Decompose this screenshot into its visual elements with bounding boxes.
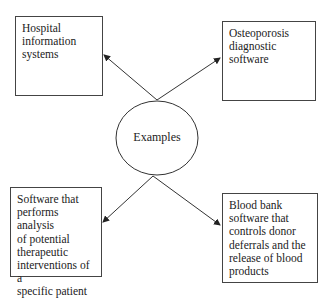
node-line: controls donor bbox=[229, 225, 311, 238]
node-line: release of blood bbox=[229, 252, 311, 265]
node-line: Software that bbox=[17, 193, 95, 206]
node-line: deferrals and the bbox=[229, 239, 311, 252]
node-blood-bank-software: Blood bank software that controls donor … bbox=[222, 193, 318, 283]
node-line: of potential bbox=[17, 233, 95, 246]
center-node-label: Examples bbox=[117, 130, 197, 145]
node-line: performs analysis bbox=[17, 206, 95, 232]
node-line: diagnostic bbox=[229, 40, 309, 53]
edge-to-top-left bbox=[104, 55, 157, 100]
node-line: specific patient bbox=[17, 285, 95, 298]
edge-to-top-right bbox=[157, 58, 220, 100]
edge-to-bottom-left bbox=[103, 176, 153, 222]
node-line: Hospital bbox=[22, 22, 96, 35]
node-line: products bbox=[229, 265, 311, 278]
node-line: information bbox=[22, 35, 96, 48]
node-line: interventions of a bbox=[17, 259, 95, 285]
node-line: Osteoporosis bbox=[229, 27, 309, 40]
node-line: software that bbox=[229, 212, 311, 225]
edge-to-bottom-right bbox=[153, 176, 220, 225]
node-line: software bbox=[229, 53, 309, 66]
node-hospital-information-systems: Hospital information systems bbox=[15, 16, 103, 96]
node-line: Blood bank bbox=[229, 199, 311, 212]
node-therapeutic-analysis-software: Software that performs analysis of poten… bbox=[10, 187, 102, 277]
node-line: systems bbox=[22, 48, 96, 61]
node-osteoporosis-diagnostic-software: Osteoporosis diagnostic software bbox=[222, 21, 316, 101]
node-line: therapeutic bbox=[17, 246, 95, 259]
